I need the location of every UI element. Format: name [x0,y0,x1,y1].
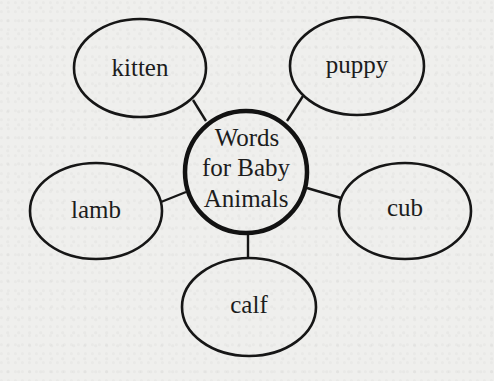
word-web-diagram: kitten puppy lamb cub calf Words for Bab… [0,0,494,381]
center-label-line-3: Animals [204,185,289,212]
diagram-canvas: kitten puppy lamb cub calf Words for Bab… [0,0,494,381]
node-cub: cub [339,163,471,259]
connector-kitten [193,100,206,121]
connector-puppy [287,96,303,121]
center-label-line-1: Words [215,124,280,151]
node-lamb-label: lamb [71,196,121,223]
node-lamb: lamb [30,163,162,259]
connector-cub [307,188,341,198]
center-node: Words for Baby Animals [185,111,307,233]
center-label-line-2: for Baby [202,154,291,181]
connector-lamb [161,192,186,202]
node-cub-label: cub [387,194,423,221]
node-calf-label: calf [230,291,268,318]
node-puppy: puppy [290,17,424,115]
node-calf: calf [182,258,316,356]
node-kitten: kitten [74,19,206,117]
node-kitten-label: kitten [112,54,169,81]
node-puppy-label: puppy [326,51,389,78]
